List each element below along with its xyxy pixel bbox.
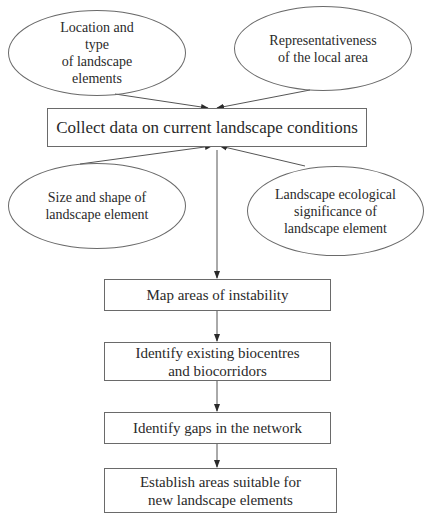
input-location-label: Location and type of landscape elements: [60, 19, 133, 87]
step-gaps-label: Identify gaps in the network: [133, 419, 302, 437]
input-representativeness: Representativeness of the local area: [234, 6, 412, 91]
step-map-instability: Map areas of instability: [104, 279, 331, 311]
step-map-label: Map areas of instability: [146, 286, 288, 304]
step-identify-biocentres: Identify existing biocentres and biocorr…: [104, 342, 331, 381]
step-establish-label: Establish areas suitable for new landsca…: [140, 473, 301, 509]
input-location-and-type: Location and type of landscape elements: [8, 10, 186, 96]
edge-representativeness-to-collect: [217, 90, 310, 108]
edge-location-to-collect: [115, 94, 208, 108]
edge-significance-to-collect: [220, 146, 305, 166]
input-size-label: Size and shape of landscape element: [45, 189, 148, 223]
edge-size-to-collect: [80, 146, 212, 164]
input-size-and-shape: Size and shape of landscape element: [8, 163, 186, 249]
step-identify-bio-label: Identify existing biocentres and biocorr…: [135, 344, 299, 380]
input-ecological-significance: Landscape ecological significance of lan…: [247, 166, 424, 256]
input-representativeness-label: Representativeness of the local area: [269, 32, 376, 66]
step-identify-gaps: Identify gaps in the network: [104, 412, 331, 444]
step-collect-label: Collect data on current landscape condit…: [56, 119, 358, 137]
input-significance-label: Landscape ecological significance of lan…: [275, 186, 396, 237]
step-collect-data: Collect data on current landscape condit…: [47, 108, 367, 147]
step-establish-areas: Establish areas suitable for new landsca…: [104, 468, 337, 513]
